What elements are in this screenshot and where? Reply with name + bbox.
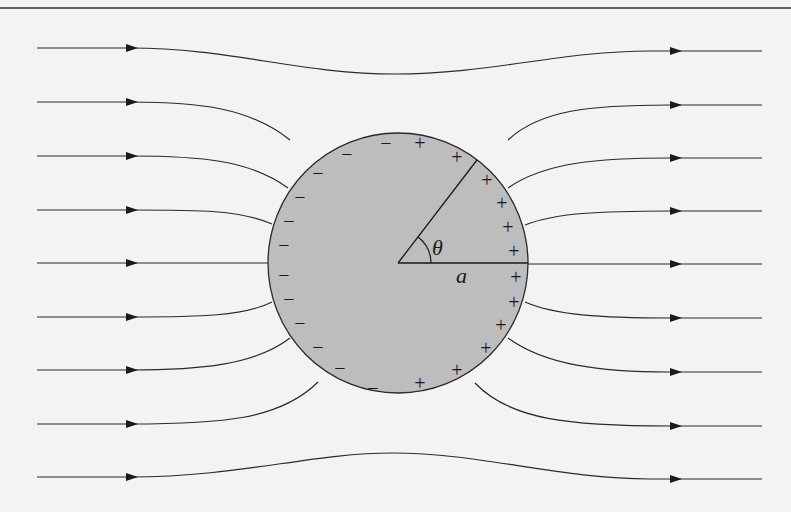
arrow-icon — [670, 260, 682, 268]
negative-charge: − — [334, 358, 345, 378]
angle-label-theta: θ — [432, 237, 443, 259]
radius-label-a: a — [456, 265, 467, 287]
field-line — [508, 105, 762, 140]
arrow-icon — [670, 422, 682, 430]
electric-field-diagram — [0, 0, 791, 512]
field-line — [525, 211, 762, 225]
arrow-icon — [670, 475, 682, 483]
arrow-icon — [670, 47, 682, 55]
field-line — [525, 302, 762, 318]
arrow-icon — [670, 154, 682, 162]
negative-charge: − — [380, 133, 391, 153]
negative-charge: − — [367, 378, 378, 398]
arrow-icon — [126, 206, 138, 214]
arrow-icon — [670, 101, 682, 109]
negative-charge: − — [283, 289, 294, 309]
field-line — [37, 48, 762, 74]
negative-charge: − — [294, 187, 305, 207]
arrow-icon — [126, 420, 138, 428]
field-line — [508, 158, 762, 188]
field-line — [37, 302, 272, 317]
negative-charge: − — [278, 235, 289, 255]
field-line — [475, 383, 762, 426]
positive-charge: + — [496, 193, 507, 213]
arrow-icon — [126, 366, 138, 374]
positive-charge: + — [414, 373, 425, 393]
negative-charge: − — [294, 313, 305, 333]
field-line — [37, 210, 272, 224]
arrow-icon — [126, 473, 138, 481]
arrow-icon — [670, 207, 682, 215]
arrow-icon — [126, 259, 138, 267]
negative-charge: − — [312, 337, 323, 357]
field-line — [508, 338, 762, 372]
positive-charge: + — [414, 133, 425, 153]
positive-charge: + — [451, 147, 462, 167]
field-line — [37, 453, 762, 479]
field-line — [37, 156, 288, 188]
positive-charge: + — [508, 241, 519, 261]
positive-charge: + — [481, 170, 492, 190]
negative-charge: − — [278, 265, 289, 285]
positive-charge: + — [451, 360, 462, 380]
positive-charge: + — [495, 315, 506, 335]
arrow-icon — [126, 313, 138, 321]
positive-charge: + — [480, 338, 491, 358]
arrow-icon — [126, 44, 138, 52]
arrow-icon — [126, 98, 138, 106]
field-line — [37, 338, 290, 370]
arrow-icon — [670, 368, 682, 376]
positive-charge: + — [508, 292, 519, 312]
field-line — [37, 102, 290, 140]
negative-charge: − — [341, 144, 352, 164]
arrow-icon — [670, 314, 682, 322]
negative-charge: − — [312, 163, 323, 183]
positive-charge: + — [502, 217, 513, 237]
negative-charge: − — [283, 211, 294, 231]
positive-charge: + — [510, 267, 521, 287]
field-line — [37, 382, 318, 424]
arrow-icon — [126, 152, 138, 160]
